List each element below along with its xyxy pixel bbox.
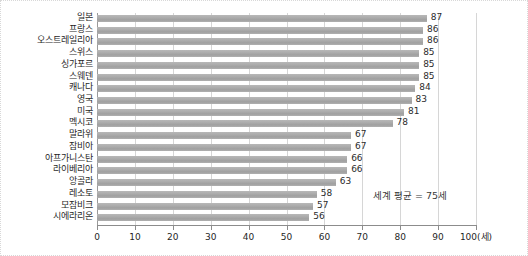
category-label: 레소토 <box>1 188 93 199</box>
bar-value-label: 86 <box>427 35 438 46</box>
bar <box>97 109 404 116</box>
bar-row: 87 <box>97 13 476 25</box>
bar-value-label: 81 <box>408 106 419 117</box>
gridline-100 <box>476 13 477 225</box>
bar <box>97 15 427 22</box>
x-tick-label: 70 <box>357 232 368 243</box>
bar <box>97 167 347 174</box>
category-label: 영국 <box>1 94 93 105</box>
x-tick-label: 100(세) <box>460 232 492 243</box>
bar-value-label: 85 <box>423 47 434 58</box>
bar <box>97 191 317 198</box>
bar-row: 86 <box>97 25 476 37</box>
bar-value-label: 84 <box>419 82 430 93</box>
chart-page: 일본프랑스오스트레일리아스위스싱가포르스웨덴캐나다영국미국멕시코말라위잠비아아프… <box>0 0 528 256</box>
category-label: 잠비아 <box>1 141 93 152</box>
bar-value-label: 66 <box>351 164 362 175</box>
bar <box>97 120 393 127</box>
bar-row: 86 <box>97 36 476 48</box>
x-tick-10 <box>135 226 136 230</box>
bar <box>97 74 419 81</box>
category-label: 프랑스 <box>1 24 93 35</box>
bar-value-label: 58 <box>321 188 332 199</box>
bar-value-label: 67 <box>355 129 366 140</box>
bar-row: 81 <box>97 107 476 119</box>
category-label: 미국 <box>1 106 93 117</box>
x-tick-70 <box>362 226 363 230</box>
bar-value-label: 85 <box>423 59 434 70</box>
x-tick-label: 20 <box>167 232 178 243</box>
x-tick-label: 0 <box>94 232 100 243</box>
x-tick-label: 80 <box>394 232 405 243</box>
bar <box>97 203 313 210</box>
category-label: 오스트레일리아 <box>1 35 93 46</box>
x-tick-50 <box>287 226 288 230</box>
category-label: 캐나다 <box>1 82 93 93</box>
bar <box>97 179 336 186</box>
bar-value-label: 87 <box>431 12 442 23</box>
bar <box>97 214 309 221</box>
bar-row: 57 <box>97 201 476 213</box>
x-tick-40 <box>249 226 250 230</box>
bar <box>97 144 351 151</box>
x-tick-label: 10 <box>129 232 140 243</box>
bar-value-label: 78 <box>397 117 408 128</box>
category-label: 시에라리온 <box>1 211 93 222</box>
bar-row: 78 <box>97 118 476 130</box>
x-tick-label: 60 <box>319 232 330 243</box>
bar-row: 63 <box>97 177 476 189</box>
bar-row: 67 <box>97 142 476 154</box>
bar <box>97 38 423 45</box>
category-label: 싱가포르 <box>1 59 93 70</box>
x-tick-90 <box>438 226 439 230</box>
category-label: 말라위 <box>1 129 93 140</box>
bar <box>97 27 423 34</box>
bar-value-label: 56 <box>313 211 324 222</box>
bar-value-label: 63 <box>340 176 351 187</box>
bar-value-label: 57 <box>317 200 328 211</box>
x-tick-label: 30 <box>205 232 216 243</box>
bar-value-label: 83 <box>416 94 427 105</box>
x-tick-label: 50 <box>281 232 292 243</box>
x-tick-20 <box>173 226 174 230</box>
bar <box>97 85 415 92</box>
x-tick-30 <box>211 226 212 230</box>
category-label: 멕시코 <box>1 117 93 128</box>
bar-value-label: 86 <box>427 24 438 35</box>
bar-value-label: 66 <box>351 153 362 164</box>
x-tick-0 <box>97 226 98 230</box>
bar-value-label: 85 <box>423 71 434 82</box>
x-tick-100 <box>476 226 477 230</box>
bar <box>97 62 419 69</box>
category-label: 스위스 <box>1 47 93 58</box>
x-tick-label: 90 <box>432 232 443 243</box>
category-label: 아프가니스탄 <box>1 153 93 164</box>
x-tick-label: 40 <box>243 232 254 243</box>
category-label: 앙골라 <box>1 176 93 187</box>
bar-value-label: 67 <box>355 141 366 152</box>
world-average-annotation: 세계 평균 = 75세 <box>373 190 447 202</box>
bar-row: 67 <box>97 130 476 142</box>
x-tick-80 <box>400 226 401 230</box>
bar-row: 85 <box>97 60 476 72</box>
category-label: 라이베리아 <box>1 164 93 175</box>
bar-row: 66 <box>97 165 476 177</box>
bar-row: 85 <box>97 48 476 60</box>
bar <box>97 50 419 57</box>
category-axis-labels: 일본프랑스오스트레일리아스위스싱가포르스웨덴캐나다영국미국멕시코말라위잠비아아프… <box>1 13 93 225</box>
bar <box>97 132 351 139</box>
bar <box>97 97 412 104</box>
bar <box>97 156 347 163</box>
category-label: 스웨덴 <box>1 71 93 82</box>
bar-row: 66 <box>97 154 476 166</box>
x-tick-60 <box>324 226 325 230</box>
category-label: 모잠비크 <box>1 200 93 211</box>
category-label: 일본 <box>1 12 93 23</box>
bar-row: 56 <box>97 212 476 224</box>
